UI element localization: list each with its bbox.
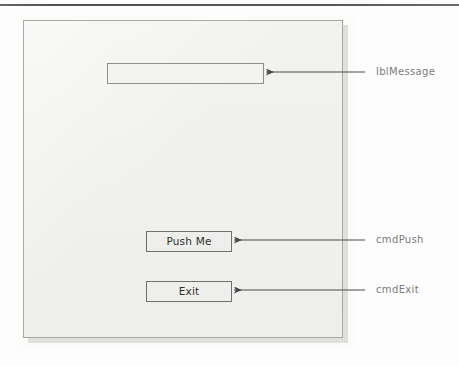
message-label-control[interactable] — [107, 63, 264, 84]
top-horizontal-rule — [0, 4, 459, 6]
exit-button[interactable]: Exit — [146, 281, 232, 302]
page-canvas: Push Me Exit lblMessage cmdPush cmdExit — [0, 0, 459, 366]
vb-form-window[interactable]: Push Me Exit — [23, 20, 343, 338]
annotation-label-cmdexit: cmdExit — [376, 284, 419, 295]
push-me-button[interactable]: Push Me — [146, 231, 232, 252]
annotation-label-cmdpush: cmdPush — [376, 234, 424, 245]
annotation-label-lblmessage: lblMessage — [376, 66, 435, 77]
